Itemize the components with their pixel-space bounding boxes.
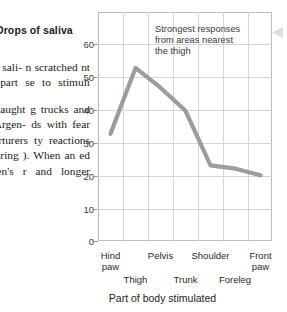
gridline-h-40 — [98, 110, 272, 111]
xtick-label-pelvis: Pelvis — [142, 250, 179, 261]
ytick-mark-10 — [94, 209, 98, 210]
x-axis-title: Part of body stimulated — [0, 292, 287, 304]
ytick-label-60: 60 — [68, 39, 94, 50]
gridline-v-2 — [148, 12, 149, 241]
ytick-mark-40 — [94, 110, 98, 111]
ytick-mark-0 — [94, 241, 98, 242]
xtick-label-foreleg: Foreleg — [215, 274, 255, 285]
xtick-label-hind-paw: Hind paw — [92, 250, 129, 272]
ytick-label-30: 30 — [68, 138, 94, 149]
ytick-label-0: 0 — [68, 236, 94, 247]
chart-figure: 60 50 40 30 20 10 0 Strongest responses … — [0, 0, 287, 312]
ytick-mark-50 — [94, 77, 98, 78]
gridline-h-20 — [98, 176, 272, 177]
chart-annotation: Strongest responses from areas nearest t… — [155, 24, 267, 58]
gridline-h-30 — [98, 143, 272, 144]
gridline-v-1 — [123, 12, 124, 241]
ytick-mark-20 — [94, 176, 98, 177]
ytick-label-20: 20 — [68, 171, 94, 182]
xtick-label-front-paw: Front paw — [242, 250, 279, 272]
gridline-h-10 — [98, 209, 272, 210]
ytick-label-50: 50 — [68, 72, 94, 83]
ytick-mark-60 — [94, 44, 98, 45]
gridline-h-50 — [98, 77, 272, 78]
xtick-label-thigh: Thigh — [117, 274, 154, 285]
xtick-label-shoulder: Shoulder — [189, 250, 232, 261]
left-triangle-icon — [272, 27, 284, 38]
ytick-label-10: 10 — [68, 204, 94, 215]
ytick-mark-30 — [94, 143, 98, 144]
ytick-label-40: 40 — [68, 105, 94, 116]
xtick-label-trunk: Trunk — [167, 274, 204, 285]
